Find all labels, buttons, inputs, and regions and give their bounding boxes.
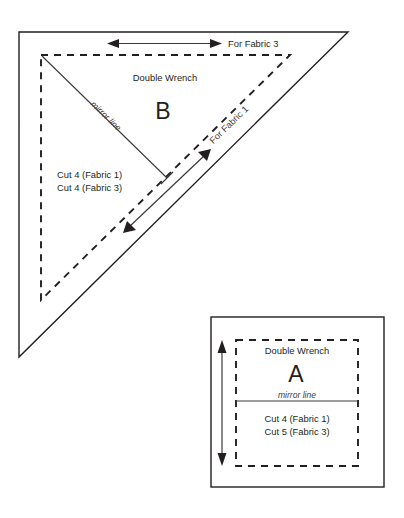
piece-b-fabric1-grain-arrow: [123, 149, 211, 233]
piece-a-letter: A: [288, 361, 304, 387]
cutting-diagram-svg: Double Wrench B mirror line For Fabric 1…: [0, 0, 404, 518]
piece-a-seam-allowance: [236, 340, 358, 466]
piece-b-fabric3-grain-arrow: [107, 39, 222, 48]
piece-b-mirror-line-label: mirror line: [89, 99, 124, 133]
piece-a-mirror-line-label: mirror line: [278, 390, 316, 400]
piece-b-fabric3-grain-label: For Fabric 3: [228, 38, 279, 49]
diagram-sheet: Double Wrench B mirror line For Fabric 1…: [0, 0, 404, 518]
piece-b-block-name: Double Wrench: [133, 72, 197, 83]
piece-a-cut-line-1: Cut 4 (Fabric 1): [264, 413, 329, 424]
piece-b-cut-line-1: Cut 4 (Fabric 1): [57, 169, 122, 180]
piece-a-grain-arrow: [218, 340, 227, 466]
piece-a-block-name: Double Wrench: [265, 345, 329, 356]
piece-a-cut-line-2: Cut 5 (Fabric 3): [264, 426, 329, 437]
piece-b-group: Double Wrench B mirror line For Fabric 1…: [19, 32, 348, 357]
piece-b-letter: B: [155, 98, 170, 124]
piece-b-fabric1-grain-label: For Fabric 1: [208, 104, 251, 146]
piece-a-group: Double Wrench A mirror line Cut 4 (Fabri…: [211, 317, 384, 487]
piece-b-cut-line-2: Cut 4 (Fabric 3): [57, 182, 122, 193]
